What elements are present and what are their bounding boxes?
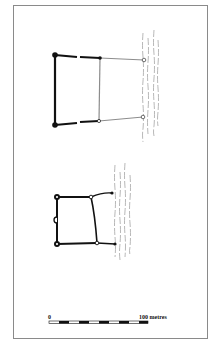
scale-end-label: 100 metres [139, 314, 167, 320]
upper-plan [52, 52, 146, 128]
corner-tower [52, 52, 58, 58]
scale-start-label: 0 [48, 314, 51, 320]
upper-river-lines [143, 30, 159, 142]
corner-tower [52, 122, 58, 128]
semicircular-tower [54, 217, 57, 223]
lower-plan [54, 191, 117, 247]
lower-river-lines [115, 163, 131, 260]
scale-bar [49, 321, 148, 324]
site-plans [0, 0, 218, 346]
